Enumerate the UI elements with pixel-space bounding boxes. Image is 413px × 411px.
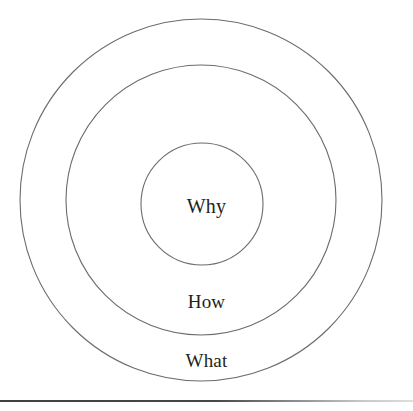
ring-label-why: Why (0, 194, 413, 218)
bottom-divider-rule (0, 400, 413, 402)
golden-circle-diagram: Why How What (0, 0, 413, 411)
ring-label-how: How (0, 290, 413, 313)
ring-label-what: What (0, 349, 413, 372)
